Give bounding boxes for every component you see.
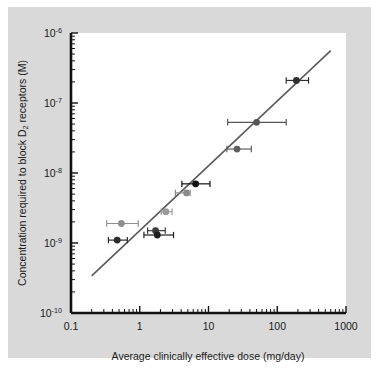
x-tick-label: 1 bbox=[137, 320, 143, 332]
data-point bbox=[162, 208, 169, 215]
data-point bbox=[154, 232, 161, 239]
y-tick-label: 10-10 bbox=[40, 306, 62, 319]
x-tick-labels: 0.11101001000 bbox=[64, 320, 358, 332]
data-point bbox=[183, 189, 190, 196]
y-tick-label: 10-7 bbox=[44, 96, 62, 109]
data-point bbox=[293, 77, 300, 84]
y-tick-label: 10-8 bbox=[44, 166, 62, 179]
y-tick-label: 10-9 bbox=[44, 236, 62, 249]
data-point bbox=[114, 237, 121, 244]
data-point bbox=[234, 146, 241, 153]
figure-panel: 0.11101001000 10-610-710-810-910-10 Aver… bbox=[0, 0, 380, 386]
x-tick-label: 0.1 bbox=[64, 320, 79, 332]
data-point bbox=[192, 180, 199, 187]
y-axis-title: Concentration required to block D2 recep… bbox=[16, 60, 30, 286]
y-tick-labels: 10-610-710-810-910-10 bbox=[40, 26, 62, 319]
x-tick-label: 10 bbox=[203, 320, 215, 332]
y-tick-label: 10-6 bbox=[44, 26, 62, 39]
data-point bbox=[118, 220, 125, 227]
data-point bbox=[253, 119, 260, 126]
y-axis-title-part1: Concentration required to block D bbox=[16, 129, 28, 286]
x-tick-label: 1000 bbox=[334, 320, 358, 332]
x-axis-title: Average clinically effective dose (mg/da… bbox=[112, 350, 305, 362]
y-axis-title-part2: receptors (M) bbox=[16, 60, 28, 125]
x-tick-label: 100 bbox=[268, 320, 286, 332]
scatter-plot: 0.11101001000 10-610-710-810-910-10 Aver… bbox=[0, 0, 380, 386]
